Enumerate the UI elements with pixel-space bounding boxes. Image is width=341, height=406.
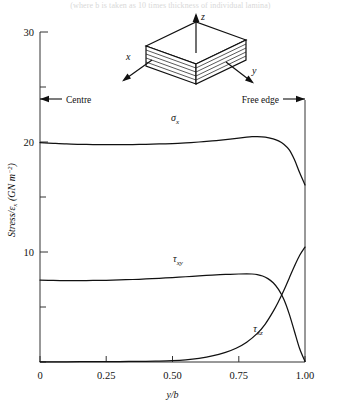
figure-container: (where b is taken as 10 times thickness … — [0, 0, 341, 406]
axis-x-arrowhead-icon — [122, 74, 131, 82]
axis-z-label: z — [200, 11, 205, 22]
curve-label-tau-xy: τxy — [173, 253, 184, 267]
curve-tau-xz — [40, 247, 305, 362]
y-axis-title-stress: Stress/ — [6, 209, 17, 237]
y-tick-label-30: 30 — [24, 27, 35, 38]
left-arrow-icon — [40, 96, 49, 102]
y-axis-title-units-close: ) — [6, 162, 18, 167]
svg-text:y/b: y/b — [165, 389, 178, 400]
x-tick-label-0.25: 0.25 — [97, 370, 115, 381]
x-tick-label-0: 0 — [37, 370, 42, 381]
curve-label-sigma-x: σx — [171, 112, 180, 126]
curve-sigma-x — [40, 137, 305, 185]
y-axis-title-units: (GN m — [6, 174, 18, 201]
x-axis-title: y/b — [165, 389, 178, 400]
curve-tau-xy — [40, 274, 305, 362]
y-axis-ticks — [40, 32, 48, 362]
axis-z-arrowhead-icon — [193, 13, 200, 22]
y-tick-label-10: 10 — [24, 247, 35, 258]
stress-distribution-plot: 10 20 30 0 0.25 0.50 0.75 1.00 y/b Stres… — [0, 0, 341, 406]
right-arrow-icon — [296, 96, 305, 102]
axis-y-arrowhead-icon — [245, 76, 254, 84]
x-tick-label-0.75: 0.75 — [230, 370, 248, 381]
free-edge-annotation: Free edge — [242, 95, 305, 105]
centre-label: Centre — [66, 95, 91, 105]
plot-axes — [40, 32, 305, 362]
laminate-block-diagram: z x y — [122, 11, 257, 84]
curve-label-tau-xz: τxz — [253, 323, 263, 337]
x-tick-label-1.00: 1.00 — [296, 370, 314, 381]
centre-annotation: Centre — [40, 95, 91, 105]
y-axis-title: Stress/εx (GN m−2) — [6, 162, 19, 236]
data-curves — [40, 137, 305, 362]
y-tick-label-20: 20 — [24, 137, 35, 148]
axis-y-label: y — [251, 65, 257, 76]
axis-x-label: x — [125, 51, 131, 62]
svg-text:Stress/εx (GN m−2): Stress/εx (GN m−2) — [6, 162, 19, 236]
x-tick-label-0.50: 0.50 — [163, 370, 181, 381]
free-edge-label: Free edge — [242, 95, 279, 105]
x-axis-title-den: b — [174, 389, 179, 400]
